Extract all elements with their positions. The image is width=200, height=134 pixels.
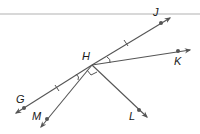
angle-arc-ghm	[76, 74, 79, 80]
diagram-canvas: JKGMLH	[0, 0, 200, 134]
point-label-l: L	[129, 110, 135, 122]
ray-hj	[92, 18, 170, 65]
point-label-k: K	[174, 55, 182, 67]
ray-hg	[16, 65, 92, 113]
point-dot-g	[22, 106, 26, 110]
rays	[16, 18, 190, 127]
geometry-diagram: JKGMLH	[0, 0, 200, 134]
point-label-j: J	[152, 6, 159, 18]
point-dot-k	[176, 49, 180, 53]
point-dot-l	[137, 108, 141, 112]
point-dot-m	[45, 117, 49, 121]
right-angle-mark	[87, 70, 97, 75]
point-dot-j	[159, 21, 163, 25]
vertex-label-h: H	[82, 50, 90, 62]
point-label-m: M	[32, 110, 42, 122]
point-label-g: G	[16, 93, 25, 105]
ray-hm	[41, 65, 92, 127]
